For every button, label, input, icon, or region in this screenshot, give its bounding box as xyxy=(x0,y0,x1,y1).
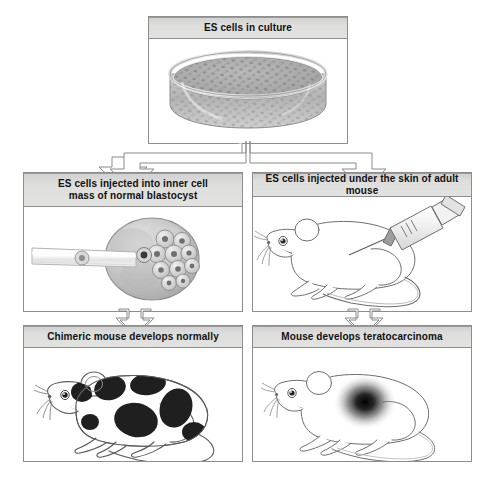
illustration-blastocyst-injection xyxy=(24,207,242,311)
panel-header-es-cells-injected-blastocyst: ES cells injected into inner cell mass o… xyxy=(24,173,242,207)
panel-title-blastocyst-line2: mass of normal blastocyst xyxy=(69,190,198,202)
mouse-syringe-icon xyxy=(253,197,471,311)
petri-dish-icon xyxy=(160,48,336,134)
panel-header-es-cells-injected-skin: ES cells injected under the skin of adul… xyxy=(253,173,471,197)
panel-teratocarcinoma-mouse: Mouse develops teratocarcinoma xyxy=(252,325,472,462)
panel-es-cells-injected-blastocyst: ES cells injected into inner cell mass o… xyxy=(23,172,243,312)
panel-title-teratocarcinoma-mouse: Mouse develops teratocarcinoma xyxy=(281,331,442,343)
mouse-tumor-icon xyxy=(253,348,471,461)
pipette-blastocyst-icon xyxy=(24,207,242,311)
panel-header-chimeric-mouse: Chimeric mouse develops normally xyxy=(24,326,242,348)
illustration-mouse-with-syringe xyxy=(253,197,471,311)
panel-title-chimeric-mouse: Chimeric mouse develops normally xyxy=(47,331,219,343)
diagram-canvas: ES cells in culture xyxy=(0,0,492,490)
panel-header-teratocarcinoma-mouse: Mouse develops teratocarcinoma xyxy=(253,326,471,348)
panel-chimeric-mouse: Chimeric mouse develops normally xyxy=(23,325,243,462)
illustration-chimeric-mouse xyxy=(24,348,242,461)
panel-header-es-cells-in-culture: ES cells in culture xyxy=(149,17,347,39)
illustration-teratocarcinoma-mouse xyxy=(253,348,471,461)
panel-title-es-cells-in-culture: ES cells in culture xyxy=(204,22,292,34)
panel-es-cells-in-culture: ES cells in culture xyxy=(148,16,348,144)
panel-es-cells-injected-skin: ES cells injected under the skin of adul… xyxy=(252,172,472,312)
panel-title-injected-skin: ES cells injected under the skin of adul… xyxy=(253,173,471,197)
illustration-petri-dish xyxy=(149,39,347,143)
chimeric-mouse-icon xyxy=(24,348,242,461)
panel-title-blastocyst-line1: ES cells injected into inner cell xyxy=(58,178,208,190)
